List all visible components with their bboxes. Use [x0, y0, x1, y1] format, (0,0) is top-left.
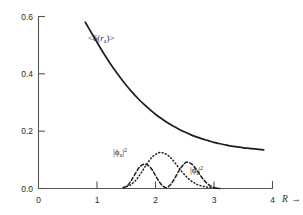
phii-exponent: 2: [200, 165, 203, 171]
annotation-phi-i-text: |ϕi|2: [190, 165, 203, 177]
annotation-phi-i: |ϕi|2: [190, 165, 203, 177]
annotation-expectation-delta: <δ(ra)>: [88, 33, 115, 44]
x-tick-label-4: 4: [270, 195, 275, 205]
y-axis-tick-labels: 0.0 0.2 0.4 0.6: [21, 12, 33, 194]
x-tick-label-0: 0: [36, 195, 41, 205]
annotation-phi-a-text: |ϕa|2: [113, 147, 127, 159]
axis-spines: [38, 16, 273, 189]
y-tick-label-1: 0.2: [21, 126, 33, 136]
x-axis-ticks: [97, 182, 214, 189]
annotation-phi-a: |ϕa|2: [113, 147, 127, 159]
x-axis-tick-labels: 0 1 2 3 4: [36, 195, 275, 205]
annotation-expectation-delta-text: <δ(ra)>: [88, 33, 115, 44]
expect-suffix: >: [110, 33, 115, 43]
y-tick-label-2: 0.4: [21, 69, 33, 79]
y-axis-ticks: [39, 74, 46, 189]
y-tick-label-0: 0.0: [21, 184, 33, 194]
x-axis-name: R: [281, 194, 288, 204]
x-axis-title-group: R →: [281, 194, 301, 204]
x-tick-label-3: 3: [212, 195, 217, 205]
x-tick-label-2: 2: [153, 195, 158, 205]
phia-exponent: 2: [124, 147, 127, 153]
figure-canvas: 0.0 0.2 0.4 0.6 0 1 2 3 4 R →: [0, 0, 303, 215]
x-tick-label-1: 1: [95, 195, 100, 205]
y-tick-label-3: 0.6: [21, 12, 33, 22]
data-curves: [85, 22, 263, 188]
curve-phi-i-squared: [123, 162, 220, 188]
x-axis-arrow-icon: →: [291, 194, 301, 204]
plot-area: 0.0 0.2 0.4 0.6 0 1 2 3 4 R →: [0, 0, 303, 215]
